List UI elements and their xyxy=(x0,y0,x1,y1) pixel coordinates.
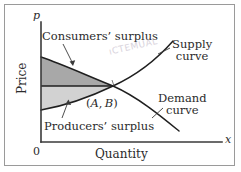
consumers-surplus-label: Consumers’ surplus xyxy=(42,30,158,42)
y-axis-title: Price xyxy=(16,52,29,104)
supply-curve-leader xyxy=(158,48,170,54)
demand-curve-label-line2: curve xyxy=(158,104,207,116)
equilibrium-point-label: (A, B) xyxy=(86,97,118,109)
origin-label: 0 xyxy=(33,146,40,158)
supply-curve-label: Supply curve xyxy=(172,38,212,62)
price-axis-symbol: p xyxy=(33,10,40,22)
supply-curve-label-line2: curve xyxy=(172,50,212,62)
consumers-surplus-leader xyxy=(63,44,73,64)
consumers-surplus-arrowhead xyxy=(70,60,76,66)
supply-demand-figure: p x 0 Quantity Price Consumers’ surplus … xyxy=(0,0,241,172)
equilibrium-y-symbol: B xyxy=(105,96,113,110)
equilibrium-close-paren: ) xyxy=(113,96,118,110)
x-axis-title: Quantity xyxy=(95,148,148,161)
demand-curve-label: Demand curve xyxy=(158,92,207,116)
equilibrium-x-symbol: A xyxy=(91,96,99,110)
producers-surplus-label: Producers’ surplus xyxy=(44,120,154,132)
quantity-axis-symbol: x xyxy=(225,134,231,146)
